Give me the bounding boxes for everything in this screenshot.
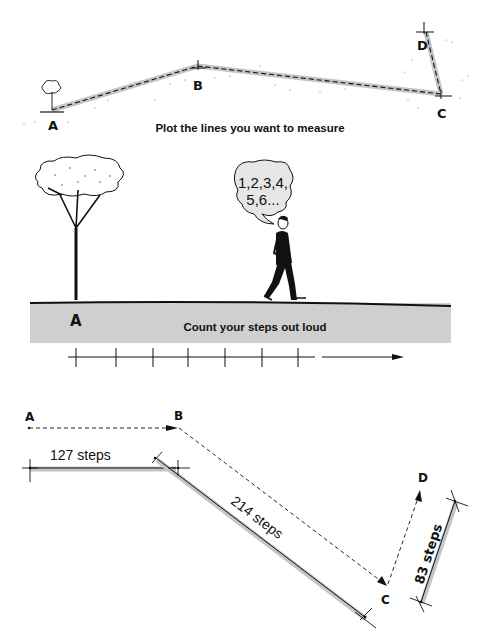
bottom-label-d: D (418, 471, 428, 485)
measuring-distance-illustration: A B C D Plot the lines you want to measu… (0, 0, 485, 633)
survey-markers (192, 22, 452, 99)
bottom-label-b: B (174, 409, 183, 423)
point-label-d: D (417, 38, 428, 53)
step-scale (68, 348, 392, 367)
tree-icon (35, 155, 123, 300)
ground-speckles (23, 39, 468, 124)
middle-panel: A Count your steps out loud 1,2,3,4, 5,6… (30, 155, 451, 367)
segment-label-ab: 127 steps (50, 447, 111, 463)
bottom-panel: A B C D (22, 409, 468, 628)
count-text-line1: 1,2,3,4, (238, 174, 288, 191)
route-band (52, 66, 441, 110)
measured-segments (30, 458, 456, 619)
thought-bubble: 1,2,3,4, 5,6... (234, 160, 293, 224)
arrow-b-icon (166, 425, 178, 431)
top-panel: A B C D Plot the lines you want to measu… (23, 22, 468, 134)
middle-caption: Count your steps out loud (183, 321, 326, 333)
arrow-c-icon (377, 576, 387, 586)
point-label-a: A (48, 118, 58, 133)
walking-person-icon (264, 216, 306, 300)
bottom-label-c: C (381, 593, 390, 607)
point-label-b: B (193, 78, 203, 93)
count-text-line2: 5,6... (246, 191, 279, 208)
bottom-label-a: A (25, 410, 35, 424)
top-caption: Plot the lines you want to measure (155, 122, 344, 134)
direction-arrow-icon (392, 354, 404, 360)
start-label-a: A (70, 312, 82, 330)
segment-end-ticks (22, 452, 468, 628)
arrow-d-icon (415, 490, 422, 502)
point-label-c: C (437, 106, 447, 121)
